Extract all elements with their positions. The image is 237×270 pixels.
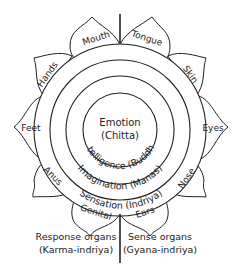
center-label-line1: Emotion <box>99 117 140 128</box>
chakra-diagram: Emotion (Chitta) Intelligence (Buddhi) I… <box>0 0 237 270</box>
caption-sense-organs: Sense organs <box>128 231 192 242</box>
caption-response-organs: Response organs <box>35 231 116 242</box>
center-label-line2: (Chitta) <box>101 130 139 141</box>
petal-label-feet: Feet <box>21 123 41 133</box>
caption-gyana-indriya: (Gyana-indriya) <box>123 244 197 255</box>
caption-karma-indriya: (Karma-indriya) <box>39 244 113 255</box>
petal-label-eyes: Eyes <box>202 123 224 133</box>
